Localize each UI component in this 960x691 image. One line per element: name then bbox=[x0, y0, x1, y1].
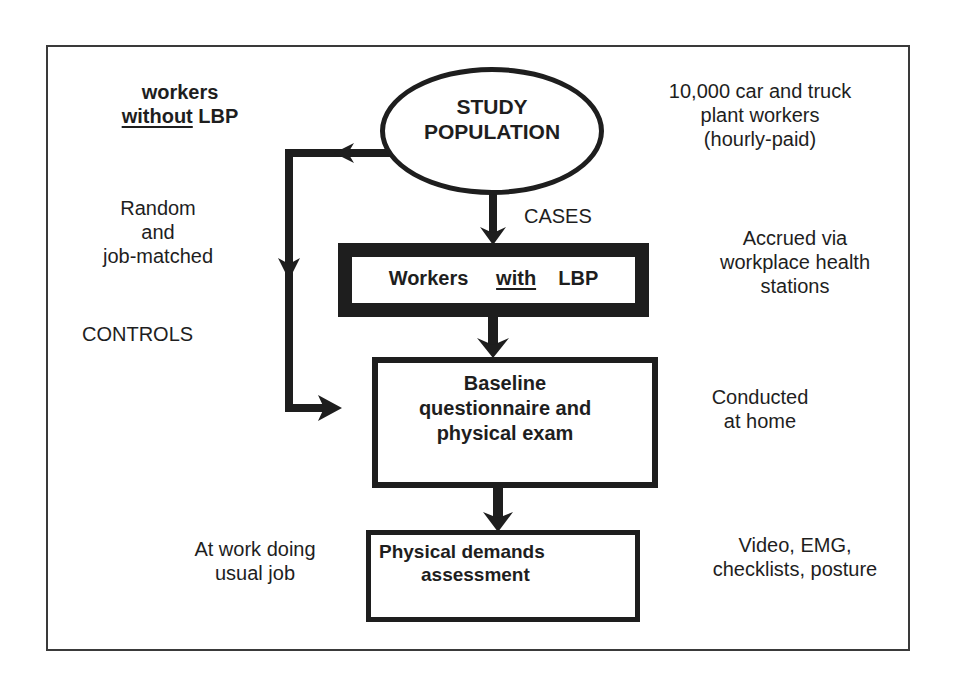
physical-demands-line2: assessment bbox=[379, 564, 545, 587]
baseline-node: Baseline questionnaire and physical exam bbox=[372, 357, 658, 488]
conducted-at-home-label: Conducted at home bbox=[690, 385, 830, 433]
with-word: with bbox=[496, 267, 536, 289]
physical-demands-line1: Physical demands bbox=[379, 541, 545, 564]
cases-label: CASES bbox=[524, 204, 592, 228]
study-population-line2: POPULATION bbox=[385, 119, 599, 144]
baseline-line1: Baseline bbox=[378, 371, 632, 396]
study-population-node: STUDY POPULATION bbox=[380, 67, 604, 195]
measures-label: Video, EMG, checklists, posture bbox=[690, 533, 900, 581]
study-population-line1: STUDY bbox=[385, 94, 599, 119]
workers-without-lbp-label: workers without LBP bbox=[100, 80, 260, 128]
at-work-label: At work doing usual job bbox=[170, 537, 340, 585]
lbp-word: LBP bbox=[558, 267, 598, 289]
baseline-line3: physical exam bbox=[378, 421, 632, 446]
accrued-via-label: Accrued via workplace health stations bbox=[680, 226, 910, 298]
controls-label: CONTROLS bbox=[82, 322, 193, 346]
population-description: 10,000 car and truck plant workers (hour… bbox=[640, 79, 880, 151]
workers-with-lbp-node: Workers with LBP bbox=[338, 243, 649, 317]
workers-word: Workers bbox=[389, 267, 469, 289]
physical-demands-node: Physical demands assessment bbox=[366, 530, 640, 622]
baseline-line2: questionnaire and bbox=[378, 396, 632, 421]
random-job-matched-label: Random and job-matched bbox=[88, 196, 228, 268]
